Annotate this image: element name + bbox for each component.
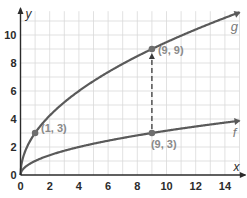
curves [21,11,241,175]
y-tick-label: 2 [10,141,16,153]
chart: xy024681012140246810 (1, 3)(9, 9)(9, 3)g… [0,0,246,198]
y-tick-label: 10 [4,29,16,41]
y-tick-label: 4 [10,113,17,125]
y-axis-label: y [25,7,33,21]
point-label: (9, 3) [151,138,177,150]
y-tick-label: 6 [10,85,16,97]
y-tick-label: 8 [10,57,16,69]
point-label: (1, 3) [41,122,67,134]
x-axis-label: x [233,160,241,174]
point-marker [32,130,39,137]
x-tick-label: 8 [134,180,140,192]
x-tick-label: 14 [219,180,232,192]
grid [21,11,240,175]
x-tick-label: 12 [190,180,202,192]
x-axis-arrow-icon [240,172,246,178]
y-axis-arrow-icon [18,7,24,14]
x-tick-label: 2 [47,180,53,192]
x-tick-label: 6 [105,180,111,192]
y-tick-label: 0 [10,169,16,181]
x-tick-label: 0 [17,180,23,192]
point-marker [149,46,156,53]
curve-g [21,12,240,175]
up-arrow-icon [149,53,155,59]
point-label: (9, 9) [158,44,184,56]
point-marker [149,130,156,137]
function-label-f: f [233,125,238,140]
x-tick-label: 4 [76,180,83,192]
annotations: (1, 3)(9, 9)(9, 3)gf [32,19,239,150]
function-label-g: g [231,19,239,34]
axes [18,7,247,178]
x-tick-label: 10 [160,180,172,192]
